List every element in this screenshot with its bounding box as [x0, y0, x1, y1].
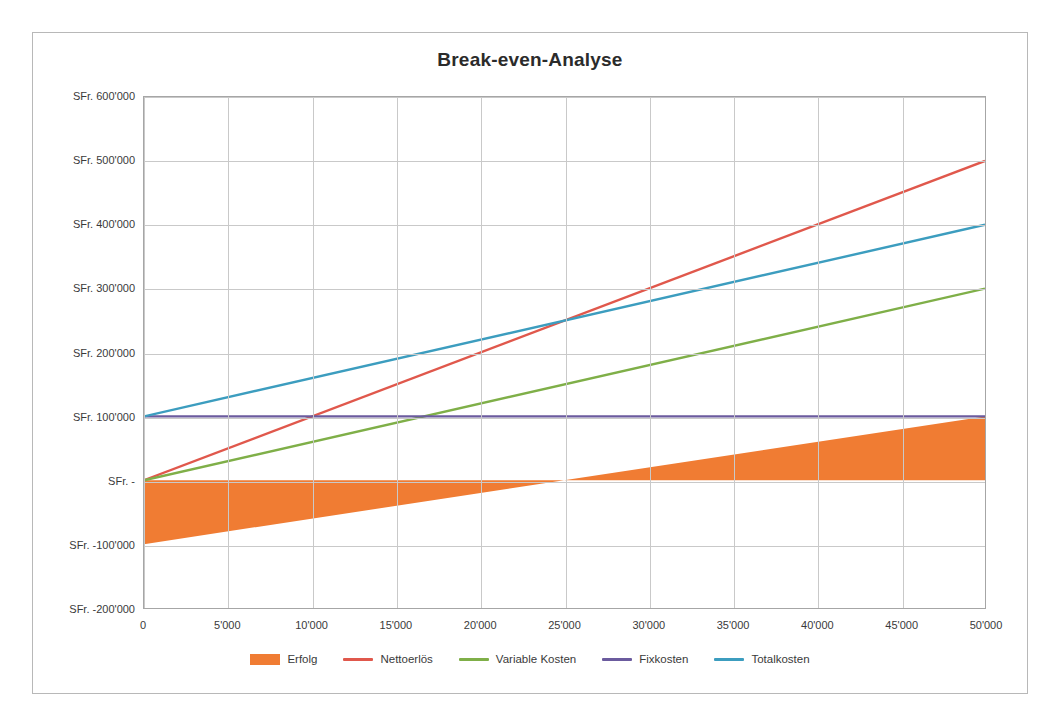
x-tick-label: 20'000 [464, 619, 497, 631]
plot-inner [144, 97, 985, 608]
y-tick-label: SFr. 100'000 [73, 411, 135, 423]
gridline-horizontal [144, 546, 985, 547]
x-tick-label: 25'000 [548, 619, 581, 631]
chart-series-svg [144, 97, 985, 608]
y-tick-label: SFr. 500'000 [73, 154, 135, 166]
chart-title: Break-even-Analyse [33, 49, 1027, 71]
gridline-vertical [144, 97, 145, 608]
gridline-horizontal [144, 482, 985, 483]
gridline-vertical [397, 97, 398, 608]
x-tick-label: 50'000 [970, 619, 1003, 631]
x-tick-label: 0 [140, 619, 146, 631]
legend-label-fixkosten: Fixkosten [639, 653, 688, 665]
x-tick-label: 10'000 [295, 619, 328, 631]
gridline-horizontal [144, 97, 985, 98]
gridline-vertical [566, 97, 567, 608]
x-tick-label: 30'000 [632, 619, 665, 631]
x-tick-label: 40'000 [801, 619, 834, 631]
x-tick-label: 35'000 [717, 619, 750, 631]
gridline-vertical [818, 97, 819, 608]
series-line-totalkosten [144, 225, 985, 417]
legend-label-totalkosten: Totalkosten [751, 653, 809, 665]
legend-label-nettoerl-s: Nettoerlös [380, 653, 432, 665]
y-tick-label: SFr. 600'000 [73, 90, 135, 102]
x-tick-label: 5'000 [214, 619, 241, 631]
gridline-vertical [228, 97, 229, 608]
chart-legend: ErfolgNettoerlösVariable KostenFixkosten… [33, 653, 1027, 665]
legend-swatch-totalkosten [714, 658, 744, 661]
legend-swatch-erfolg [250, 654, 280, 665]
gridline-vertical [903, 97, 904, 608]
legend-swatch-fixkosten [602, 658, 632, 661]
y-tick-label: SFr. - [108, 475, 135, 487]
legend-swatch-variable-kosten [459, 658, 489, 661]
legend-item-nettoerl-s[interactable]: Nettoerlös [343, 653, 432, 665]
legend-label-erfolg: Erfolg [287, 653, 317, 665]
legend-item-erfolg[interactable]: Erfolg [250, 653, 317, 665]
gridline-vertical [734, 97, 735, 608]
legend-item-fixkosten[interactable]: Fixkosten [602, 653, 688, 665]
y-tick-label: SFr. 200'000 [73, 347, 135, 359]
legend-swatch-nettoerl-s [343, 658, 373, 661]
y-tick-label: SFr. -200'000 [69, 603, 135, 615]
y-tick-label: SFr. 400'000 [73, 218, 135, 230]
gridline-horizontal [144, 354, 985, 355]
gridline-horizontal [144, 418, 985, 419]
plot-area [143, 96, 986, 609]
gridline-vertical [650, 97, 651, 608]
gridline-horizontal [144, 225, 985, 226]
legend-label-variable-kosten: Variable Kosten [496, 653, 576, 665]
series-area-erfolg [144, 416, 985, 544]
chart-frame: Break-even-Analyse SFr. 600'000SFr. 500'… [32, 32, 1028, 694]
x-axis-tick-labels: 05'00010'00015'00020'00025'00030'00035'0… [143, 619, 986, 639]
y-tick-label: SFr. -100'000 [69, 539, 135, 551]
legend-item-totalkosten[interactable]: Totalkosten [714, 653, 809, 665]
gridline-horizontal [144, 161, 985, 162]
gridline-horizontal [144, 289, 985, 290]
legend-item-variable-kosten[interactable]: Variable Kosten [459, 653, 576, 665]
y-axis-tick-labels: SFr. 600'000SFr. 500'000SFr. 400'000SFr.… [33, 96, 135, 609]
gridline-vertical [481, 97, 482, 608]
x-tick-label: 15'000 [380, 619, 413, 631]
x-tick-label: 45'000 [885, 619, 918, 631]
gridline-vertical [313, 97, 314, 608]
y-tick-label: SFr. 300'000 [73, 282, 135, 294]
